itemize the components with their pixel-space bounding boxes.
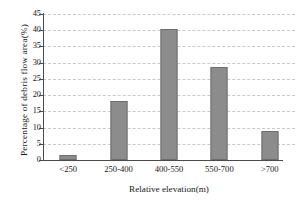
bar-slot [245,14,295,160]
bar-slot [43,14,93,160]
x-axis-title: Relative elevation(m) [43,184,295,194]
bars-layer [43,14,295,160]
x-axis-line [43,160,283,161]
x-axis-tick-labels: <250250-400400-550550-700>700 [43,164,295,177]
plot-area [43,14,295,160]
bar-slot [144,14,194,160]
x-axis-tick-label: >700 [240,164,300,175]
bar-slot [194,14,244,160]
bar[interactable] [211,67,228,160]
bar[interactable] [110,101,127,160]
bar[interactable] [261,131,278,160]
bar-slot [93,14,143,160]
bar-chart-figure: Percentage of debris flow area(%) 051015… [0,0,303,204]
y-axis-line [43,13,44,161]
bar[interactable] [160,29,177,160]
